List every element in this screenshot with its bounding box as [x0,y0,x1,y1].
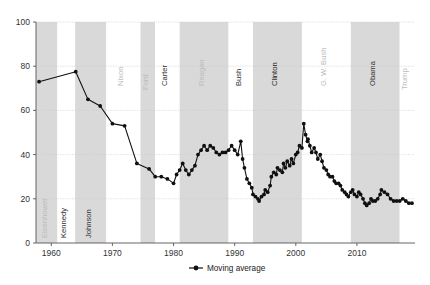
data-point [172,181,176,185]
term-band-reagan [180,22,229,243]
data-point [291,162,295,166]
data-point [184,168,188,172]
data-point [217,153,221,157]
data-point [274,173,278,177]
data-point [310,150,314,154]
x-tick-label-2010: 2010 [347,248,366,258]
term-band-obama [351,22,400,243]
y-tick-label-60: 60 [21,105,31,115]
data-point [147,167,151,171]
term-band-trump [400,22,415,243]
data-point [243,166,247,170]
y-tick-label-80: 80 [21,61,31,71]
data-point [190,168,194,172]
data-point [250,186,254,190]
data-point [290,157,294,161]
data-point [280,170,284,174]
legend-label-moving-average: Moving average [207,264,266,273]
president-label-reagan: Reagan [197,59,206,86]
data-point [196,153,200,157]
data-point [398,199,402,203]
data-point [320,159,324,163]
data-point [404,199,408,203]
data-point [193,164,197,168]
x-tick-label-2000: 2000 [286,248,305,258]
president-label-ford: Ford [141,74,150,90]
data-point [37,80,41,84]
data-point [86,97,90,101]
data-point [285,159,289,163]
data-point [282,162,286,166]
data-point [401,197,405,201]
data-point [181,162,185,166]
data-point [288,164,292,168]
data-point [153,175,157,179]
data-point [214,150,218,154]
data-point [355,195,359,199]
chart-container: EisenhowerKennedyJohnsonNixonFordCarterR… [0,0,430,285]
data-point [208,144,212,148]
data-point [306,137,310,141]
data-point [351,188,355,192]
data-point [233,148,237,152]
president-label-kennedy: Kennedy [59,208,68,238]
data-point [379,188,383,192]
president-label-carter: Carter [160,64,169,86]
data-point [247,181,251,185]
data-point [324,168,328,172]
data-point [98,104,102,108]
data-point [383,190,387,194]
data-point [300,146,304,150]
president-label-trump: Trump [400,68,409,90]
legend-marker-icon [194,266,199,271]
data-point [111,122,115,126]
x-tick-label-1990: 1990 [225,248,244,258]
data-point [296,150,300,154]
y-tick-label-20: 20 [21,194,31,204]
president-label-obama: Obama [368,60,377,86]
data-point [202,144,206,148]
data-point [245,177,249,181]
term-band-clinton [253,22,302,243]
president-label-johnson: Johnson [84,209,93,238]
term-band-bush [229,22,253,243]
data-point [389,197,393,201]
presidential-term-bands [36,22,415,243]
data-point [386,192,390,196]
data-point [257,199,261,203]
data-point [262,192,266,196]
data-point [376,197,380,201]
data-point [236,153,240,157]
data-point [269,175,273,179]
data-point [211,146,215,150]
y-tick-label-0: 0 [25,238,30,248]
x-tick-label-1960: 1960 [42,248,61,258]
president-label-nixon: Nixon [116,67,125,86]
data-point [331,175,335,179]
data-point [367,201,371,205]
term-band-carter [155,22,179,243]
trust-in-government-line-chart: EisenhowerKennedyJohnsonNixonFordCarterR… [0,0,430,285]
data-point [175,173,179,177]
data-point [123,124,127,128]
term-band-ford [141,22,156,243]
x-tick-label-1970: 1970 [103,248,122,258]
data-point [239,139,243,143]
data-point [178,168,182,172]
data-point [316,157,320,161]
data-point [339,184,343,188]
data-point [227,148,231,152]
data-point [314,150,318,154]
data-point [302,122,306,126]
president-label-eisenhower: Eisenhower [40,198,49,238]
data-point [410,201,414,205]
data-point [187,173,191,177]
president-label-g-w-bush: G. W. Bush [319,48,328,86]
data-point [284,166,288,170]
term-band-nixon [106,22,140,243]
data-point [224,150,228,154]
data-point [159,175,163,179]
data-point [74,70,78,74]
data-point [230,144,234,148]
data-point [346,195,350,199]
